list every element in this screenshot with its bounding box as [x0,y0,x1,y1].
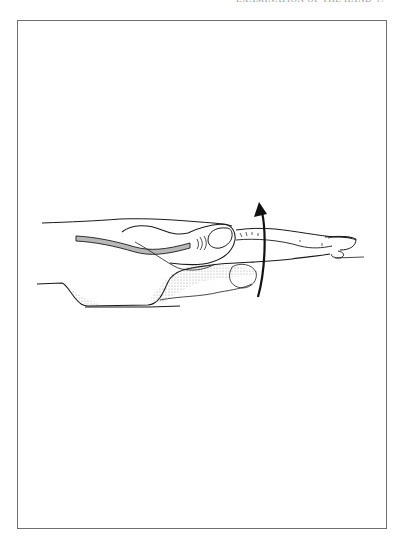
thumb-crease [204,236,206,250]
hand-illustration [0,0,406,544]
wrist-shading [68,288,100,305]
motion-arrow-shaft [258,212,265,297]
thumbnail [208,228,232,248]
motion-arrow-head [254,202,267,217]
finger-mid [236,239,332,248]
thenar-shading [150,264,262,304]
dorsal-outline [42,219,232,226]
tendon [76,236,190,254]
thumb-crease [197,239,199,249]
fingertip-lower [331,251,343,258]
thumb-crease [200,237,202,250]
finger-dorsal [236,228,356,240]
